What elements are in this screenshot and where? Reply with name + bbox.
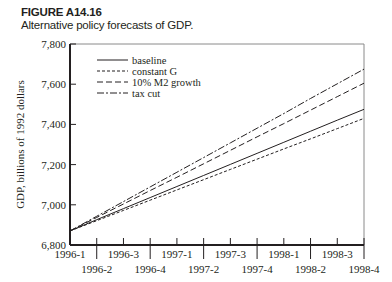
legend-label: baseline xyxy=(132,55,167,66)
gdp-line-chart: 6,8007,0007,2007,4007,6007,800GDP, billi… xyxy=(0,0,392,282)
x-tick-label: 1998-4 xyxy=(348,263,380,275)
x-tick-label: 1998-3 xyxy=(322,248,354,260)
x-tick-label: 1996-3 xyxy=(108,248,140,260)
y-axis-label: GDP, billions of 1992 dollars xyxy=(14,80,26,209)
x-tick-label: 1997-2 xyxy=(188,263,219,275)
x-tick-label: 1998-1 xyxy=(268,248,299,260)
series-line-constant-g xyxy=(70,118,364,231)
y-tick-label: 7,600 xyxy=(41,78,66,90)
y-tick-label: 7,000 xyxy=(41,199,66,211)
x-tick-label: 1997-1 xyxy=(161,248,192,260)
y-tick-label: 7,200 xyxy=(41,159,66,171)
series-line-baseline xyxy=(70,109,364,231)
x-tick-label: 1996-1 xyxy=(54,248,85,260)
x-tick-label: 1996-4 xyxy=(135,263,167,275)
y-tick-label: 7,800 xyxy=(41,38,66,50)
y-tick-label: 7,400 xyxy=(41,118,66,130)
x-tick-label: 1997-3 xyxy=(215,248,247,260)
x-tick-label: 1998-2 xyxy=(295,263,326,275)
legend-label: 10% M2 growth xyxy=(132,77,202,88)
series-line-10-m2-growth xyxy=(70,83,364,231)
x-tick-label: 1997-4 xyxy=(242,263,274,275)
x-tick-label: 1996-2 xyxy=(81,263,112,275)
legend-label: constant G xyxy=(132,66,178,77)
legend-label: tax cut xyxy=(132,88,160,99)
